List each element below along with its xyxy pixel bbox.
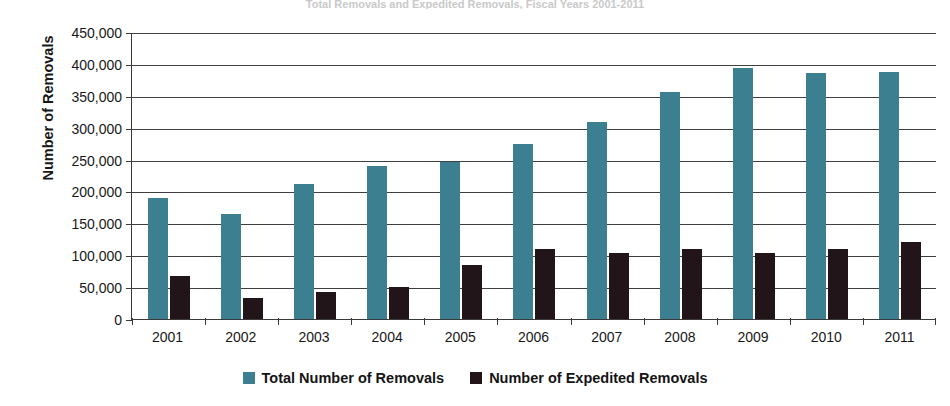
y-axis-tick-label: 0 xyxy=(32,313,122,327)
bar-total-2008[interactable] xyxy=(660,92,680,319)
bar-expedited-2007[interactable] xyxy=(609,253,629,319)
bar-chart: Total Removals and Expedited Removals, F… xyxy=(0,0,950,406)
bar-expedited-2004[interactable] xyxy=(389,287,409,319)
legend-item-total[interactable]: Total Number of Removals xyxy=(243,370,445,386)
x-axis-tick-mark xyxy=(644,318,645,325)
chart-title-cropped: Total Removals and Expedited Removals, F… xyxy=(0,0,950,9)
x-axis-label-2005: 2005 xyxy=(424,329,497,345)
y-axis-tick-label: 400,000 xyxy=(32,58,122,72)
bar-group-2010 xyxy=(790,33,863,319)
bar-expedited-2010[interactable] xyxy=(828,249,848,319)
plot-area-wrapper xyxy=(131,33,936,320)
bar-expedited-2006[interactable] xyxy=(535,249,555,319)
x-axis-label-2006: 2006 xyxy=(497,329,570,345)
x-axis-tick-mark xyxy=(717,318,718,325)
chart-legend: Total Number of RemovalsNumber of Expedi… xyxy=(0,370,950,386)
y-axis-tick-label: 300,000 xyxy=(32,122,122,136)
bar-total-2009[interactable] xyxy=(733,68,753,319)
legend-label: Number of Expedited Removals xyxy=(489,370,707,386)
bar-total-2004[interactable] xyxy=(367,166,387,319)
y-axis-tick-label: 150,000 xyxy=(32,217,122,231)
bar-total-2011[interactable] xyxy=(879,72,899,319)
bar-total-2005[interactable] xyxy=(440,162,460,319)
bar-group-2008 xyxy=(644,33,717,319)
x-axis-tick-mark xyxy=(571,318,572,325)
x-axis-tick-mark xyxy=(790,318,791,325)
bar-total-2003[interactable] xyxy=(294,184,314,319)
bar-total-2010[interactable] xyxy=(806,73,826,319)
bar-group-2004 xyxy=(351,33,424,319)
bar-group-2007 xyxy=(571,33,644,319)
bar-total-2001[interactable] xyxy=(148,198,168,319)
y-axis-tick-label: 200,000 xyxy=(32,185,122,199)
x-axis-tick-mark xyxy=(863,318,864,325)
bar-expedited-2001[interactable] xyxy=(170,276,190,319)
x-axis-tick-mark xyxy=(351,318,352,325)
x-axis-label-2011: 2011 xyxy=(863,329,936,345)
y-axis-tick-label: 450,000 xyxy=(32,26,122,40)
legend-label: Total Number of Removals xyxy=(262,370,445,386)
x-axis-labels: 2001200220032004200520062007200820092010… xyxy=(131,329,936,345)
y-axis-tick-label: 100,000 xyxy=(32,249,122,263)
bar-total-2006[interactable] xyxy=(513,144,533,319)
bar-expedited-2009[interactable] xyxy=(755,253,775,319)
x-axis-tick-mark xyxy=(424,318,425,325)
legend-swatch-icon xyxy=(243,372,255,384)
bar-total-2002[interactable] xyxy=(221,214,241,319)
bar-group-2001 xyxy=(132,33,205,319)
bar-group-2006 xyxy=(497,33,570,319)
x-axis-label-2002: 2002 xyxy=(204,329,277,345)
x-axis-tick-mark xyxy=(935,318,936,325)
x-axis-label-2008: 2008 xyxy=(643,329,716,345)
bar-group-2005 xyxy=(424,33,497,319)
x-axis-label-2004: 2004 xyxy=(351,329,424,345)
x-axis-label-2007: 2007 xyxy=(570,329,643,345)
x-axis-tick-mark xyxy=(132,318,133,325)
bar-group-2003 xyxy=(278,33,351,319)
legend-item-expedited[interactable]: Number of Expedited Removals xyxy=(470,370,707,386)
y-axis-tick-label: 50,000 xyxy=(32,281,122,295)
x-axis-tick-mark xyxy=(278,318,279,325)
plot-area xyxy=(131,33,936,320)
bar-expedited-2002[interactable] xyxy=(243,298,263,319)
bar-expedited-2005[interactable] xyxy=(462,265,482,319)
bar-expedited-2011[interactable] xyxy=(901,242,921,319)
bar-total-2007[interactable] xyxy=(587,122,607,319)
x-axis-label-2003: 2003 xyxy=(277,329,350,345)
bar-group-2009 xyxy=(717,33,790,319)
y-axis-tick-label: 350,000 xyxy=(32,90,122,104)
x-axis-label-2001: 2001 xyxy=(131,329,204,345)
y-axis-tick-label: 250,000 xyxy=(32,154,122,168)
x-axis-tick-mark xyxy=(205,318,206,325)
bar-group-2011 xyxy=(863,33,936,319)
bar-group-2002 xyxy=(205,33,278,319)
bar-expedited-2003[interactable] xyxy=(316,292,336,319)
x-axis-tick-mark xyxy=(497,318,498,325)
legend-swatch-icon xyxy=(470,372,482,384)
x-axis-label-2009: 2009 xyxy=(717,329,790,345)
bar-expedited-2008[interactable] xyxy=(682,249,702,319)
bar-groups xyxy=(132,33,936,319)
x-axis-label-2010: 2010 xyxy=(790,329,863,345)
